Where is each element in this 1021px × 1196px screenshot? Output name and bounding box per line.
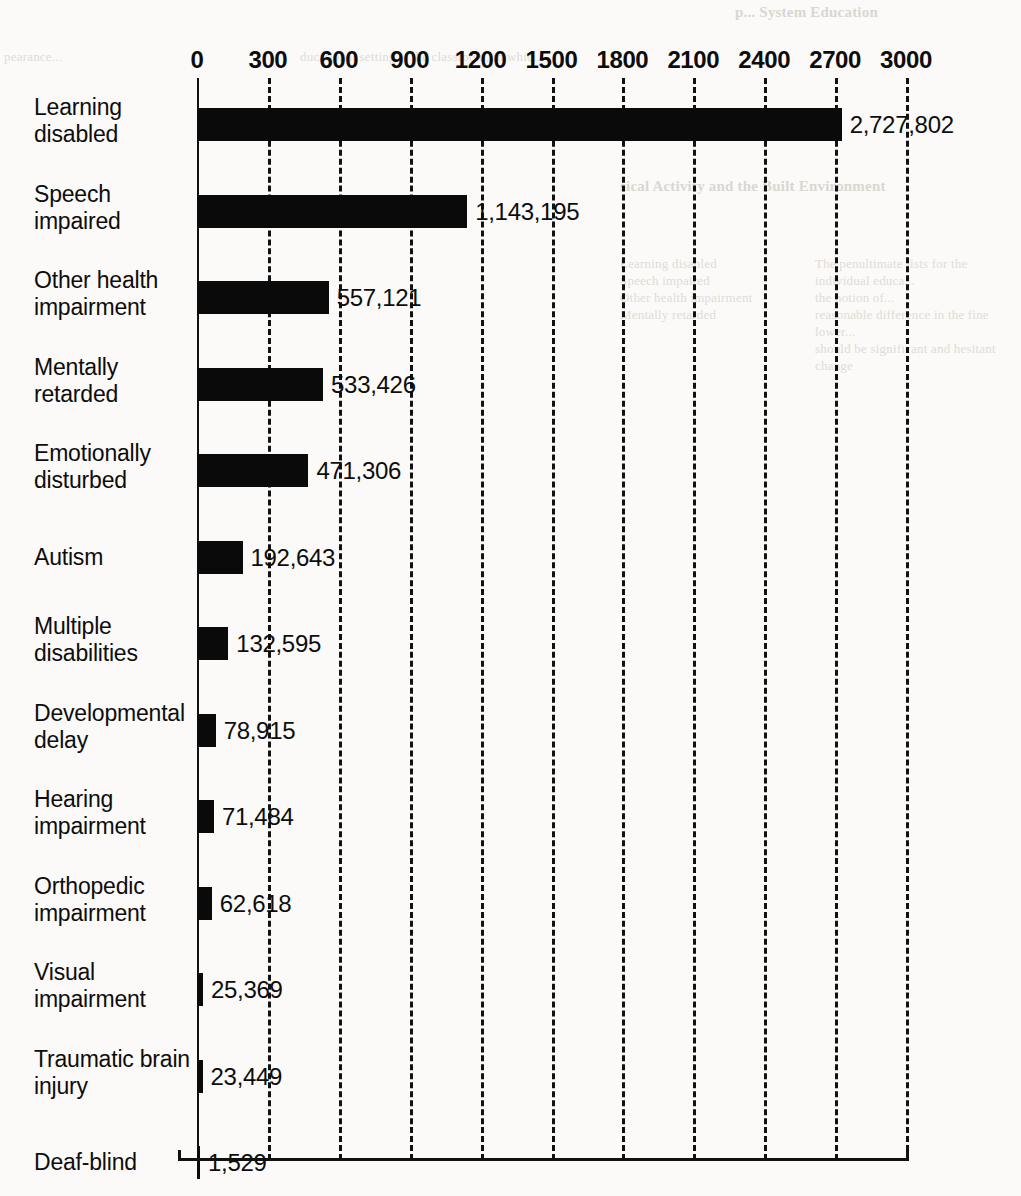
bar-row: Mentallyretarded533,426 <box>0 368 1021 401</box>
bar-row: Traumatic braininjury23,449 <box>0 1060 1021 1093</box>
x-axis-left-cap <box>178 1150 181 1161</box>
bar-value-label: 71,484 <box>222 800 294 833</box>
x-axis-line <box>178 1158 909 1161</box>
bar-value-label: 23,449 <box>211 1060 283 1093</box>
bar <box>197 714 216 747</box>
x-tick-label-2400: 2400 <box>738 46 790 74</box>
bar-value-label: 132,595 <box>236 627 321 660</box>
bar-row: Developmentaldelay78,915 <box>0 714 1021 747</box>
bar-row: Emotionallydisturbed471,306 <box>0 454 1021 487</box>
bar-row: Learningdisabled2,727,802 <box>0 108 1021 141</box>
bar-value-label: 471,306 <box>316 454 401 487</box>
bar <box>197 281 329 314</box>
bar-value-label: 1,529 <box>208 1146 267 1179</box>
bar-row: Speechimpaired1,143,195 <box>0 195 1021 228</box>
category-label-line1: Multiple <box>34 613 264 640</box>
x-tick-label-1200: 1200 <box>455 46 507 74</box>
bar-value-label: 2,727,802 <box>850 108 954 141</box>
bar-row: Visualimpairment25,369 <box>0 973 1021 1006</box>
x-tick-label-2700: 2700 <box>809 46 861 74</box>
horizontal-bar-chart: 03006009001200150018002100240027003000 L… <box>0 0 1021 1196</box>
bar <box>197 108 842 141</box>
bar-value-label: 533,426 <box>331 368 416 401</box>
bar <box>197 887 212 920</box>
x-tick-label-2100: 2100 <box>667 46 719 74</box>
bar <box>197 195 467 228</box>
bar-value-label: 62,618 <box>220 887 292 920</box>
x-tick-label-1800: 1800 <box>596 46 648 74</box>
bar <box>197 541 243 574</box>
bar-value-label: 192,643 <box>251 541 336 574</box>
x-tick-label-0: 0 <box>191 46 204 74</box>
bar <box>197 627 228 660</box>
x-tick-label-3000: 3000 <box>880 46 932 74</box>
bar-value-label: 25,369 <box>211 973 283 1006</box>
bar-value-label: 78,915 <box>224 714 296 747</box>
x-axis-right-cap <box>906 1150 909 1161</box>
category-label: Multipledisabilities <box>34 613 264 667</box>
bar <box>197 454 308 487</box>
bar-value-label: 557,121 <box>337 281 422 314</box>
bar-row: Hearingimpairment71,484 <box>0 800 1021 833</box>
bar <box>197 973 203 1006</box>
bar-row: Orthopedicimpairment62,618 <box>0 887 1021 920</box>
bar-row: Multipledisabilities132,595 <box>0 627 1021 660</box>
bar-row: Other healthimpairment557,121 <box>0 281 1021 314</box>
bar-value-label: 1,143,195 <box>475 195 579 228</box>
bar-row: Autism192,643 <box>0 541 1021 574</box>
x-tick-label-300: 300 <box>248 46 287 74</box>
x-tick-label-600: 600 <box>319 46 358 74</box>
category-label-line2: disabilities <box>34 640 264 667</box>
x-tick-label-1500: 1500 <box>526 46 578 74</box>
bar <box>197 1060 203 1093</box>
bar <box>197 800 214 833</box>
bar-row: Deaf-blind1,529 <box>0 1146 1021 1179</box>
x-tick-label-900: 900 <box>390 46 429 74</box>
bar <box>197 1146 200 1179</box>
bar <box>197 368 323 401</box>
